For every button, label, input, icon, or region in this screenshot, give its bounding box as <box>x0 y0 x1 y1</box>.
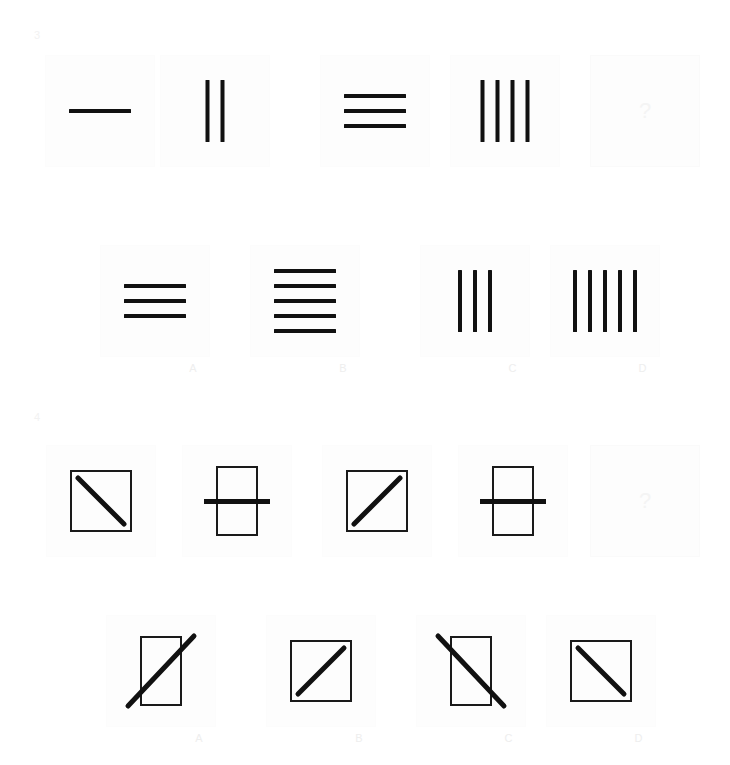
option-label-b: B <box>355 733 363 744</box>
q3-item-3 <box>320 55 430 167</box>
cell-content <box>251 246 359 356</box>
puzzle-3: 3 ? ABCD <box>0 0 730 380</box>
answer-option-c[interactable]: C <box>416 615 526 727</box>
option-label-a: A <box>189 363 197 374</box>
cell-content <box>421 246 529 356</box>
horizontal-line <box>344 109 406 113</box>
line-group-vertical-5 <box>573 270 637 332</box>
box-shape-tall-crossbar <box>480 466 546 536</box>
cell-content <box>46 56 154 166</box>
option-label-c: C <box>505 733 513 744</box>
answer-option-c[interactable]: C <box>420 245 530 357</box>
vertical-line <box>633 270 637 332</box>
line-group-vertical-2 <box>206 80 225 142</box>
cell-content: ? <box>591 56 699 166</box>
line-group-horizontal-5 <box>274 269 336 333</box>
answer-option-d[interactable]: D <box>550 245 660 357</box>
vertical-line <box>496 80 500 142</box>
cell-content <box>451 56 559 166</box>
line-group-horizontal-3 <box>124 284 186 318</box>
answer-option-a[interactable]: A <box>100 245 210 357</box>
horizontal-crossbar <box>204 499 270 504</box>
box-shape-tall-crossbar <box>204 466 270 536</box>
cell-content <box>459 446 567 556</box>
q3-item-1 <box>45 55 155 167</box>
q4-item-1 <box>46 445 156 557</box>
puzzle-4: 4 ? ABCD <box>0 390 730 765</box>
horizontal-line <box>344 124 406 128</box>
line-group-vertical-4 <box>481 80 530 142</box>
answer-option-b[interactable]: B <box>266 615 376 727</box>
puzzle-4-answer-row: ABCD <box>0 615 730 755</box>
box-shape-square-backslash <box>570 640 632 702</box>
option-label-d: D <box>635 733 643 744</box>
cell-content <box>101 246 209 356</box>
square-outline <box>570 640 632 702</box>
vertical-line <box>488 270 492 332</box>
horizontal-crossbar <box>480 499 546 504</box>
vertical-line <box>573 270 577 332</box>
cell-content <box>267 616 375 726</box>
vertical-line <box>511 80 515 142</box>
horizontal-line <box>274 269 336 273</box>
horizontal-line <box>69 109 131 113</box>
cell-content <box>183 446 291 556</box>
line-group-vertical-3 <box>458 270 492 332</box>
box-shape-tall-slash <box>128 636 194 706</box>
q3-item-4 <box>450 55 560 167</box>
vertical-line <box>458 270 462 332</box>
puzzle-3-question-row: ? <box>0 55 730 195</box>
q3-item-2 <box>160 55 270 167</box>
answer-option-b[interactable]: B <box>250 245 360 357</box>
q4-item-2 <box>182 445 292 557</box>
vertical-line <box>206 80 210 142</box>
box-shape-square-backslash <box>70 470 132 532</box>
cell-content <box>107 616 215 726</box>
horizontal-line <box>124 299 186 303</box>
option-label-b: B <box>339 363 347 374</box>
cell-content <box>417 616 525 726</box>
rectangle-outline <box>450 636 492 706</box>
vertical-line <box>473 270 477 332</box>
cell-content <box>551 246 659 356</box>
puzzle-4-question-row: ? <box>0 445 730 585</box>
vertical-line <box>481 80 485 142</box>
missing-item-cell: ? <box>590 55 700 167</box>
missing-item-cell: ? <box>590 445 700 557</box>
puzzle-3-answer-row: ABCD <box>0 245 730 385</box>
square-outline <box>290 640 352 702</box>
cell-content <box>547 616 655 726</box>
vertical-line <box>221 80 225 142</box>
horizontal-line <box>274 284 336 288</box>
square-outline <box>346 470 408 532</box>
vertical-line <box>526 80 530 142</box>
puzzle-number: 3 <box>34 30 41 41</box>
answer-option-a[interactable]: A <box>106 615 216 727</box>
cell-content <box>47 446 155 556</box>
answer-option-d[interactable]: D <box>546 615 656 727</box>
vertical-line <box>603 270 607 332</box>
q4-item-3 <box>322 445 432 557</box>
line-group-horizontal-1 <box>69 109 131 113</box>
line-group-horizontal-3 <box>344 94 406 128</box>
puzzle-number: 4 <box>34 412 41 423</box>
vertical-line <box>618 270 622 332</box>
horizontal-line <box>124 314 186 318</box>
question-mark: ? <box>639 490 651 512</box>
cell-content <box>323 446 431 556</box>
option-label-c: C <box>509 363 517 374</box>
cell-content <box>161 56 269 166</box>
horizontal-line <box>344 94 406 98</box>
horizontal-line <box>274 329 336 333</box>
box-shape-square-slash <box>346 470 408 532</box>
rectangle-outline <box>140 636 182 706</box>
question-mark: ? <box>639 100 651 122</box>
option-label-d: D <box>639 363 647 374</box>
box-shape-tall-backslash <box>438 636 504 706</box>
square-outline <box>70 470 132 532</box>
q4-item-4 <box>458 445 568 557</box>
horizontal-line <box>274 299 336 303</box>
cell-content <box>321 56 429 166</box>
box-shape-square-slash <box>290 640 352 702</box>
horizontal-line <box>274 314 336 318</box>
